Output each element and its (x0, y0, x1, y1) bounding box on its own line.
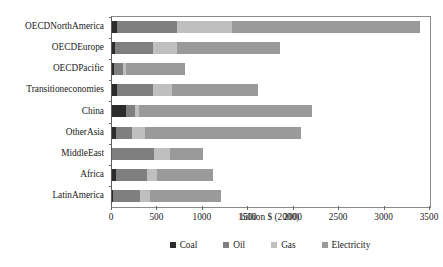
x-axis-tick-5 (338, 206, 339, 210)
stacked-bar-8 (112, 190, 221, 202)
stacked-bar-5 (112, 127, 301, 139)
y-axis-label-6: MiddleEast (61, 143, 104, 164)
legend-label: Electricity (332, 240, 371, 250)
legend-swatch-oil-icon (223, 242, 229, 248)
stacked-bar-2 (112, 63, 185, 75)
bar-segment-coal (112, 105, 126, 117)
bar-segment-oil (117, 84, 153, 96)
y-axis-label-4: China (82, 101, 104, 122)
legend-label: Gas (281, 240, 295, 250)
stacked-bar-4 (112, 105, 312, 117)
stacked-bar-3 (112, 84, 258, 96)
legend-item-oil: Oil (223, 240, 245, 250)
bar-segment-oil (116, 127, 132, 139)
y-axis-label-2: OECDPacific (53, 58, 104, 79)
bar-row (112, 186, 430, 207)
bar-segment-oil (113, 190, 140, 202)
x-axis-tick-1 (156, 206, 157, 210)
bar-row (112, 101, 430, 122)
bar-segment-electricity (170, 148, 203, 160)
bar-segment-electricity (150, 190, 221, 202)
bar-segment-oil (112, 148, 154, 160)
bar-row (112, 165, 430, 186)
y-axis-label-5: OtherAsia (66, 122, 104, 143)
bar-row (112, 123, 430, 144)
x-axis-tick-0 (111, 206, 112, 210)
y-axis-category-labels: OECDNorthAmericaOECDEuropeOECDPacificTra… (0, 16, 108, 206)
bar-row (112, 144, 430, 165)
y-axis-label-8: LatinAmerica (52, 185, 104, 206)
bar-segment-electricity (157, 169, 213, 181)
legend-item-electricity: Electricity (322, 240, 371, 250)
bar-segment-oil (116, 169, 147, 181)
bar-row (112, 80, 430, 101)
legend-swatch-gas-icon (271, 242, 277, 248)
legend-swatch-electricity-icon (322, 242, 328, 248)
bar-segment-gas (154, 148, 170, 160)
bar-segment-gas (140, 190, 150, 202)
x-axis-tick-7 (429, 206, 430, 210)
bar-segment-electricity (139, 105, 312, 117)
bar-segment-electricity (172, 84, 258, 96)
x-axis-tick-2 (202, 206, 203, 210)
legend-item-gas: Gas (271, 240, 295, 250)
bar-segment-electricity (126, 63, 185, 75)
y-axis-label-1: OECDEurope (52, 37, 104, 58)
bar-segment-gas (147, 169, 157, 181)
legend-label: Coal (180, 240, 198, 250)
legend-label: Oil (233, 240, 245, 250)
bar-row (112, 59, 430, 80)
legend-item-coal: Coal (170, 240, 198, 250)
bar-segment-oil (126, 105, 135, 117)
legend-swatch-coal-icon (170, 242, 176, 248)
stacked-bar-6 (112, 148, 203, 160)
bar-segment-oil (114, 63, 123, 75)
x-axis-tick-4 (293, 206, 294, 210)
y-axis-label-3: Transitioneconomies (26, 79, 104, 100)
x-axis-title: billion $ (2000) (111, 212, 429, 222)
bar-segment-gas (132, 127, 145, 139)
chart-legend: CoalOilGasElectricity (111, 236, 429, 254)
stacked-bar-7 (112, 169, 213, 181)
x-axis-tick-3 (247, 206, 248, 210)
y-axis-label-0: OECDNorthAmerica (25, 16, 104, 37)
bar-segment-electricity (145, 127, 300, 139)
bar-segment-gas (153, 84, 172, 96)
y-axis-label-7: Africa (80, 164, 104, 185)
x-axis: 0500100015002000250030003500 (111, 16, 429, 46)
x-axis-tick-6 (384, 206, 385, 210)
